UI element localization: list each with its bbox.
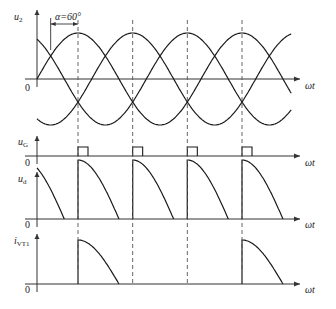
ud-segment bbox=[187, 160, 228, 219]
uG-horizontal-arrow bbox=[294, 154, 300, 159]
iVT1-zero-label: 0 bbox=[25, 284, 30, 295]
iVT1-pulse bbox=[78, 240, 119, 284]
alpha-left-arrow bbox=[51, 22, 56, 26]
u2-horizontal-arrow bbox=[294, 77, 300, 82]
ud-segment bbox=[242, 160, 283, 219]
gate-pulse bbox=[78, 147, 88, 156]
gate-pulse bbox=[133, 147, 143, 156]
uG-zero-label: 0 bbox=[25, 157, 30, 168]
ud-horizontal-arrow bbox=[294, 217, 300, 222]
iVT1-axis-label: iVT1 bbox=[14, 235, 30, 248]
u2-zero-label: 0 bbox=[25, 82, 30, 93]
uG-omega-t-label: ωt bbox=[305, 157, 315, 168]
ud-segment bbox=[133, 160, 174, 219]
u2-axis-label: u2 bbox=[14, 11, 23, 24]
ud-initial-segment bbox=[37, 168, 64, 219]
iVT1-horizontal-arrow bbox=[294, 282, 300, 287]
uG-vertical-arrow bbox=[35, 136, 40, 141]
ud-zero-label: 0 bbox=[25, 219, 30, 230]
iVT1-vertical-arrow bbox=[35, 234, 40, 239]
ud-omega-t-label: ωt bbox=[305, 219, 315, 230]
ud-segment bbox=[78, 160, 119, 219]
gate-pulse bbox=[242, 147, 252, 156]
gate-pulse bbox=[187, 147, 197, 156]
iVT1-pulse bbox=[242, 240, 283, 284]
u2-vertical-arrow bbox=[35, 10, 40, 15]
ud-axis-label: ud bbox=[18, 173, 27, 186]
alpha-right-arrow bbox=[73, 22, 78, 26]
uG-axis-label: uG bbox=[18, 136, 28, 149]
iVT1-omega-t-label: ωt bbox=[305, 284, 315, 295]
u2-omega-t-label: ωt bbox=[305, 80, 315, 91]
ud-vertical-arrow bbox=[35, 172, 40, 177]
alpha-annotation: α=60° bbox=[55, 11, 81, 22]
waveform-diagram: u2 0 ωt α=60° uG 0 ωt ud 0 ωt iVT1 0 ωt bbox=[0, 0, 336, 309]
